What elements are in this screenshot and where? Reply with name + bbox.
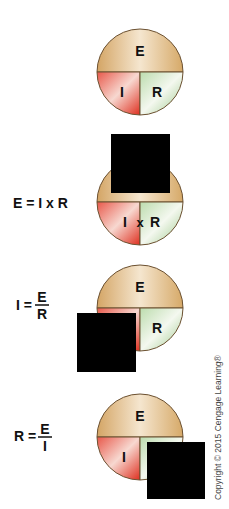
- formula-resistance-numerator: E: [40, 421, 49, 437]
- formula-resistance-denominator: I: [43, 438, 47, 454]
- operator-multiply: x: [136, 215, 144, 230]
- right-segment-r: [140, 202, 183, 245]
- formula-current-lhs: I =: [16, 297, 32, 313]
- formula-current-denominator: R: [37, 306, 47, 322]
- formula-voltage: E = I x R: [13, 195, 68, 211]
- label-i: I: [122, 449, 126, 465]
- ohms-law-figure: E I R E = I x R E I x R I = E R E R R = …: [0, 0, 229, 509]
- left-segment-i: [97, 437, 140, 480]
- label-e: E: [135, 408, 144, 424]
- left-segment-i: [97, 72, 140, 115]
- cover-square: [147, 442, 205, 499]
- label-r: R: [150, 214, 160, 230]
- label-r: R: [152, 320, 162, 336]
- cover-square: [77, 313, 136, 372]
- label-r: R: [152, 84, 162, 100]
- label-i: I: [123, 214, 127, 230]
- formula-current-numerator: E: [37, 289, 46, 305]
- label-i: I: [120, 84, 124, 100]
- label-e: E: [135, 43, 144, 59]
- ohms-law-circle-diagram: E I R: [97, 29, 183, 115]
- cover-square: [111, 134, 170, 193]
- left-segment-i: [97, 202, 140, 245]
- label-e: E: [135, 279, 144, 295]
- formula-resistance-lhs: R =: [14, 428, 36, 444]
- copyright-notice: Copyright © 2015 Cengage Learning®: [213, 354, 223, 500]
